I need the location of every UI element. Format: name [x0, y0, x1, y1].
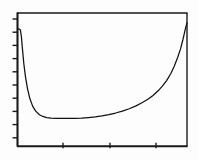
plot-frame [17, 13, 188, 147]
data-curve [18, 23, 187, 119]
chart-canvas [0, 0, 199, 160]
figure-container [0, 0, 199, 160]
